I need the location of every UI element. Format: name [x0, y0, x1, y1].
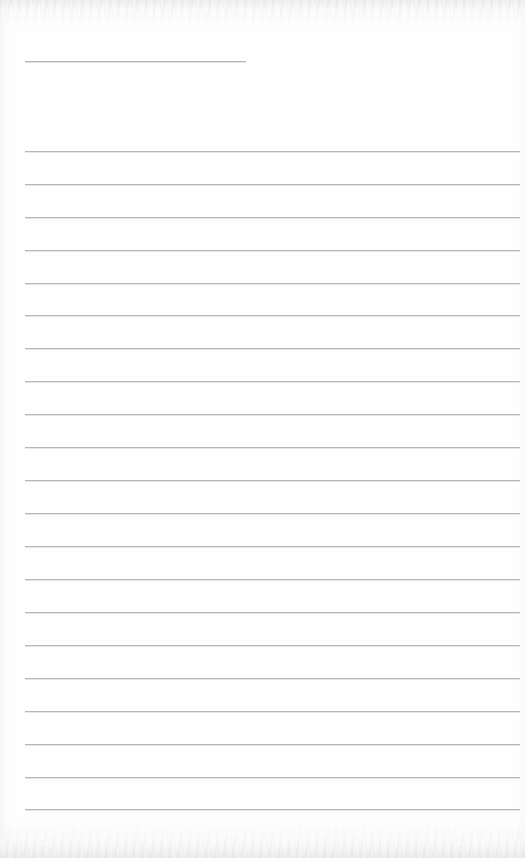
ruled-line: [25, 250, 520, 251]
ruled-line: [25, 744, 520, 745]
ruled-line: [25, 645, 520, 646]
ruled-line: [25, 217, 520, 218]
ruled-line: [25, 447, 520, 448]
ruled-line: [25, 513, 520, 514]
ruled-lines-layer: [0, 0, 525, 858]
ruled-line: [25, 348, 520, 349]
ruled-line: [25, 151, 520, 152]
ruled-line: [25, 678, 520, 679]
ruled-line: [25, 711, 520, 712]
ruled-line: [25, 283, 520, 284]
ruled-line: [25, 414, 520, 415]
title-underline-rule: [25, 61, 246, 62]
ruled-line: [25, 579, 520, 580]
ruled-line: [25, 315, 520, 316]
ruled-line: [25, 546, 520, 547]
ruled-line: [25, 480, 520, 481]
ruled-line: [25, 777, 520, 778]
ruled-line: [25, 612, 520, 613]
ruled-line: [25, 809, 520, 810]
ruled-line: [25, 381, 520, 382]
ruled-line: [25, 184, 520, 185]
scanned-ruled-page: [0, 0, 525, 858]
